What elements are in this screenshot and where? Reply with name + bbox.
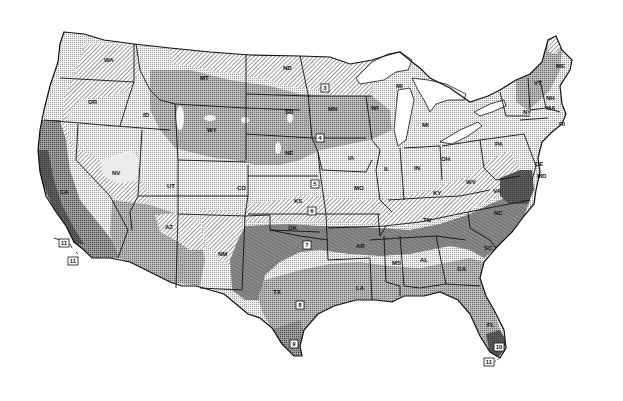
- svg-text:10: 10: [496, 344, 503, 350]
- state-label-nm: NM: [218, 251, 227, 257]
- state-label-ms: MS: [392, 260, 401, 266]
- zone-pocket: [204, 115, 216, 121]
- state-label-de: DE: [535, 161, 543, 167]
- state-label-mi-up: MI: [396, 83, 403, 89]
- zone-marker-6: 6: [308, 207, 316, 215]
- state-label-mt: MT: [200, 75, 209, 81]
- state-label-ma: MA: [546, 105, 556, 111]
- state-label-ia: IA: [348, 155, 355, 161]
- svg-text:11: 11: [70, 258, 77, 264]
- zone-marker-5: 5: [311, 180, 319, 188]
- zone-marker-11-channel-islands: 11: [59, 239, 69, 247]
- state-label-nc: NC: [494, 210, 503, 216]
- state-label-fl: FL: [487, 322, 495, 328]
- zone-pocket: [176, 106, 184, 130]
- zone-pocket: [241, 117, 249, 123]
- state-label-ny: NY: [523, 109, 531, 115]
- state-label-sd: SD: [285, 109, 294, 115]
- state-label-tn: TN: [423, 217, 431, 223]
- state-label-ks: KS: [294, 198, 302, 204]
- state-label-al: AL: [420, 257, 428, 263]
- zone-marker-8: 8: [296, 301, 304, 309]
- state-label-wi: WI: [371, 105, 379, 111]
- state-label-nd: ND: [283, 65, 292, 71]
- state-label-wa: WA: [104, 57, 114, 63]
- state-label-pa: PA: [495, 141, 504, 147]
- state-label-az: AZ: [165, 224, 173, 230]
- zone-marker-10: 10: [494, 343, 504, 351]
- state-label-in: IN: [414, 165, 420, 171]
- state-label-la: LA: [356, 285, 365, 291]
- state-label-oh: OH: [441, 156, 450, 162]
- state-label-me: ME: [556, 63, 565, 69]
- state-label-ar: AR: [356, 243, 365, 249]
- zone-marker-11-socal: 11: [68, 257, 78, 265]
- zone-marker-11-florida: 11: [484, 358, 494, 366]
- state-label-ut: UT: [167, 183, 175, 189]
- zone-pocket: [275, 142, 281, 154]
- state-label-mn: MN: [328, 106, 337, 112]
- state-label-co: CO: [237, 185, 246, 191]
- state-label-wy: WY: [207, 127, 217, 133]
- zone-marker-4: 4: [316, 134, 324, 142]
- state-label-ga: GA: [457, 266, 467, 272]
- svg-text:11: 11: [486, 359, 493, 365]
- state-label-sc: SC: [484, 245, 493, 251]
- state-label-or: OR: [88, 99, 98, 105]
- state-label-wv: WV: [466, 179, 476, 185]
- state-label-mo: MO: [354, 185, 364, 191]
- state-label-mi: MI: [422, 122, 429, 128]
- state-label-ok: OK: [288, 225, 298, 231]
- zone-marker-9: 9: [290, 340, 298, 348]
- state-label-vt: VT: [534, 80, 542, 86]
- state-label-ca: CA: [60, 189, 69, 195]
- zone-marker-7: 7: [303, 241, 311, 249]
- map-canvas: WA OR ID MT WY ND SD NE MN WI MI MI IA I…: [0, 0, 623, 401]
- svg-text:11: 11: [61, 240, 68, 246]
- state-label-nh: NH: [546, 95, 555, 101]
- zone-marker-3: 3: [321, 84, 329, 92]
- hardiness-zone-map: WA OR ID MT WY ND SD NE MN WI MI MI IA I…: [0, 0, 623, 401]
- state-label-ky: KY: [433, 190, 441, 196]
- state-label-il: IL: [384, 166, 390, 172]
- state-label-md: MD: [537, 173, 547, 179]
- state-label-id: ID: [143, 112, 150, 118]
- state-label-ne: NE: [285, 150, 293, 156]
- state-label-va: VA: [493, 188, 502, 194]
- state-label-tx: TX: [273, 289, 281, 295]
- state-label-nv: NV: [112, 170, 120, 176]
- state-label-ri: RI: [559, 121, 565, 127]
